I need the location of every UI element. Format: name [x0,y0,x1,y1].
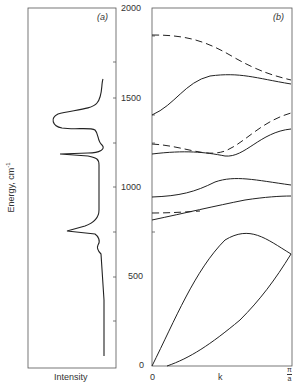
y-tick-500: 500 [128,271,143,281]
panel-b-frame [152,8,292,366]
dispersion-curves [152,35,291,366]
spectrum-curve [53,79,104,356]
acoustic-1 [152,233,291,366]
x-axis-label-k: k [218,372,223,382]
y-tick-1500: 1500 [121,93,141,103]
x-tick-0: 0 [150,372,155,382]
dashed-2 [152,113,291,153]
dashed-1 [152,35,291,80]
solid-1 [152,75,291,115]
y-tick-2000: 2000 [121,3,141,13]
y-axis-label: Energy, cm-1 [5,138,16,238]
panel-b-label: (b) [273,12,284,22]
y-tick-1000: 1000 [121,182,141,192]
panel-a-ticks [113,62,116,321]
acoustic-2 [167,254,291,366]
panel-a-label: (a) [97,12,108,22]
panel-b-ticks [152,36,155,232]
solid-3 [152,179,291,197]
x-tick-pi-over-a: π a [287,366,292,383]
solid-4 [152,196,291,220]
x-axis-label-intensity: Intensity [54,372,88,382]
figure [0,0,302,385]
panel-a-frame [28,8,116,368]
y-tick-0: 0 [139,360,144,370]
